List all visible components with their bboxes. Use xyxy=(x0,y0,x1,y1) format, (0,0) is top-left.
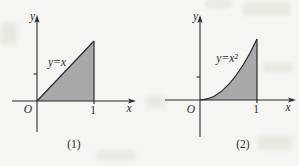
panel-caption-1: (1) xyxy=(67,138,81,151)
integral-area-figure: y x O 1 y=x (1) y x O xyxy=(0,0,299,166)
x-tick-label-1: 1 xyxy=(253,103,259,115)
textbook-figure-page: y x O 1 y=x (1) y x O xyxy=(0,0,299,166)
y-axis-label: y xyxy=(192,10,199,23)
function-label-y-equals-x-squared: y=x² xyxy=(215,52,238,65)
y-axis-label: y xyxy=(29,10,36,23)
panel-1: y x O 1 y=x (1) xyxy=(12,10,136,151)
panel-caption-2: (2) xyxy=(236,138,250,151)
origin-label: O xyxy=(24,103,33,115)
x-axis-label: x xyxy=(125,102,132,114)
x-tick-label-1: 1 xyxy=(90,104,96,116)
function-label-y-equals-x: y=x xyxy=(47,56,67,69)
origin-label: O xyxy=(187,103,196,115)
x-axis-label: x xyxy=(284,101,291,113)
panel-2: y x O 1 y=x² (2) xyxy=(165,10,296,151)
shaded-region-parabola xyxy=(200,39,257,100)
